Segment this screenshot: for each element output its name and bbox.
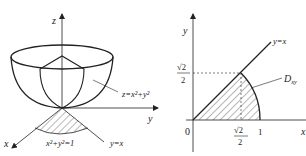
line-equation-label: y=x (272, 36, 287, 46)
y-axis-label-3d: y (147, 113, 153, 124)
x-tick-sqrt2-num: √2 (234, 125, 243, 135)
x-tick-one: 1 (258, 127, 263, 137)
base-sector-hatched (35, 108, 88, 134)
z-axis-label: z (51, 15, 56, 26)
y-tick-sqrt2-den: 2 (181, 75, 185, 85)
x-tick-sqrt2-den: 2 (238, 137, 242, 147)
y-axis-label: y (182, 25, 188, 36)
wedge-left-curve (40, 69, 62, 108)
region-figure: y x 0 y=x Dxy 1 √2 2 √2 2 (177, 14, 306, 152)
region-leader (251, 78, 282, 88)
circle-equation-label: x²+y²=1 (45, 138, 74, 148)
region-label: Dxy (283, 73, 297, 85)
x-axis-label: x (300, 126, 306, 137)
line-equation-label-3d: y=x (109, 138, 124, 148)
diagram-canvas: z y x z=x²+y² x²+y²=1 y=x y x 0 y=x Dxy … (0, 0, 306, 156)
region-d-hatched (193, 73, 260, 120)
surface-equation-label: z=x²+y² (121, 89, 150, 99)
surface-leader (93, 80, 118, 92)
wedge-right-curve (62, 69, 84, 108)
paraboloid-figure: z y x z=x²+y² x²+y²=1 y=x (3, 14, 158, 149)
origin-label: 0 (185, 126, 190, 137)
y-tick-sqrt2-num: √2 (177, 62, 186, 72)
x-axis-label-3d: x (3, 138, 9, 149)
